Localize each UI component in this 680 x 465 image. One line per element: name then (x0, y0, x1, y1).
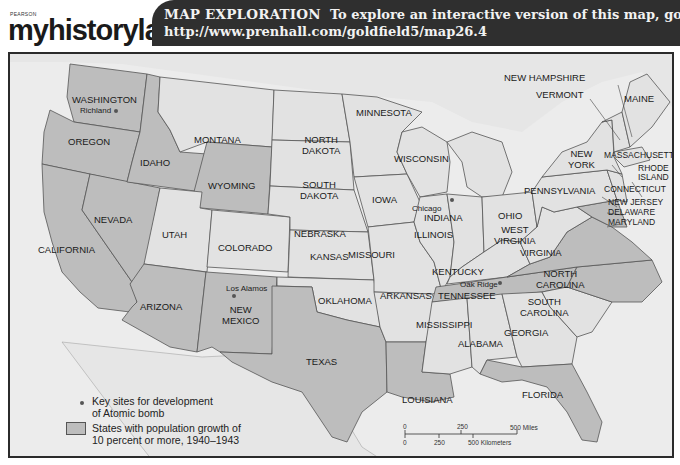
header: PEARSON myhistorylab MAP EXPLORATION To … (0, 0, 680, 50)
label-arizona: ARIZONA (140, 301, 182, 312)
label-kansas: KANSAS (310, 251, 349, 262)
legend-key-sites-line1: Key sites for development (92, 395, 213, 407)
label-oklahoma: OKLAHOMA (318, 295, 372, 306)
label-nevada: NEVADA (94, 214, 132, 225)
label-missouri: MISSOURI (348, 249, 395, 260)
legend-growth-line2: 10 percent or more, 1940–1943 (92, 434, 239, 446)
legend-growth-swatch (66, 422, 86, 435)
label-utah: UTAH (162, 229, 187, 240)
banner-line-1: MAP EXPLORATION To explore an interactiv… (164, 6, 680, 22)
label-florida: FLORIDA (522, 389, 563, 400)
label-north-dakota: NORTH DAKOTA (302, 134, 340, 156)
label-west-virginia: WEST VIRGINIA (494, 224, 536, 246)
label-new-mexico: NEW MEXICO (222, 304, 259, 326)
atomic-site-marker (114, 109, 118, 113)
label-illinois: ILLINOIS (414, 229, 453, 240)
banner-url[interactable]: http://www.prenhall.com/goldfield5/map26… (164, 24, 487, 39)
label-pennsylvania: PENNSYLVANIA (524, 185, 595, 196)
label-montana: MONTANA (194, 134, 241, 145)
label-wyoming: WYOMING (208, 180, 256, 191)
label-south-dakota: SOUTH DAKOTA (300, 179, 338, 201)
city-los-alamos: Los Alamos (226, 284, 267, 293)
scale-km-0: 0 (403, 439, 407, 446)
label-connecticut: CONNECTICUT (604, 184, 666, 195)
label-tennessee: TENNESSEE (438, 290, 496, 301)
city-oak-ridge: Oak Ridge (460, 280, 498, 289)
label-new-york: NEW YORK (568, 148, 595, 170)
label-california: CALIFORNIA (38, 244, 95, 255)
label-washington: WASHINGTON (72, 94, 137, 105)
label-south-carolina: SOUTH CAROLINA (520, 296, 569, 318)
map-exploration-banner: MAP EXPLORATION To explore an interactiv… (152, 0, 680, 46)
scale-miles-0: 0 (403, 423, 407, 430)
banner-lead: MAP EXPLORATION (164, 6, 321, 22)
label-north-carolina: NORTH CAROLINA (536, 268, 585, 290)
label-texas: TEXAS (306, 356, 337, 367)
label-louisiana: LOUISIANA (402, 394, 453, 405)
label-maine: MAINE (624, 93, 654, 104)
label-oregon: OREGON (68, 136, 110, 147)
atomic-site-marker (498, 281, 502, 285)
label-mississippi: MISSISSIPPI (416, 319, 473, 330)
label-ohio: OHIO (498, 210, 522, 221)
label-new-hampshire: NEW HAMPSHIRE (504, 72, 585, 83)
atomic-site-marker (232, 294, 236, 298)
label-rhode-island: RHODE ISLAND (638, 164, 669, 182)
label-wisconsin: WISCONSIN (394, 153, 449, 164)
label-alabama: ALABAMA (458, 338, 503, 349)
label-georgia: GEORGIA (504, 327, 548, 338)
label-colorado: COLORADO (218, 242, 272, 253)
label-virginia: VIRGINIA (520, 247, 562, 258)
banner-text: To explore an interactive version of thi… (330, 7, 680, 22)
label-massachusetts: MASSACHUSETTS (604, 150, 674, 161)
label-maryland: MARYLAND (608, 217, 655, 228)
legend-site-marker (80, 401, 84, 405)
label-indiana: INDIANA (424, 212, 463, 223)
scale-miles-500: 500 Miles (510, 424, 538, 431)
label-vermont: VERMONT (536, 89, 584, 100)
label-iowa: IOWA (372, 194, 397, 205)
us-map: WASHINGTON OREGON CALIFORNIA IDAHO NEVAD… (8, 52, 674, 458)
label-minnesota: MINNESOTA (356, 107, 412, 118)
label-kentucky: KENTUCKY (432, 266, 484, 277)
myhistorylab-logo[interactable]: PEARSON myhistorylab (6, 4, 156, 48)
scale-km-250: 250 (434, 439, 445, 446)
city-richland: Richland (80, 106, 111, 115)
legend-growth-line1: States with population growth of (92, 422, 241, 434)
state-colorado[interactable] (207, 210, 290, 272)
scale-miles-250: 250 (457, 423, 468, 430)
label-arkansas: ARKANSAS (380, 290, 432, 301)
label-idaho: IDAHO (140, 157, 170, 168)
city-chicago: Chicago (412, 204, 441, 213)
atomic-site-marker (450, 198, 454, 202)
label-nebraska: NEBRASKA (294, 228, 346, 239)
scale-km-500: 500 Kilometers (468, 439, 511, 446)
legend-key-sites-line2: of Atomic bomb (92, 407, 164, 419)
